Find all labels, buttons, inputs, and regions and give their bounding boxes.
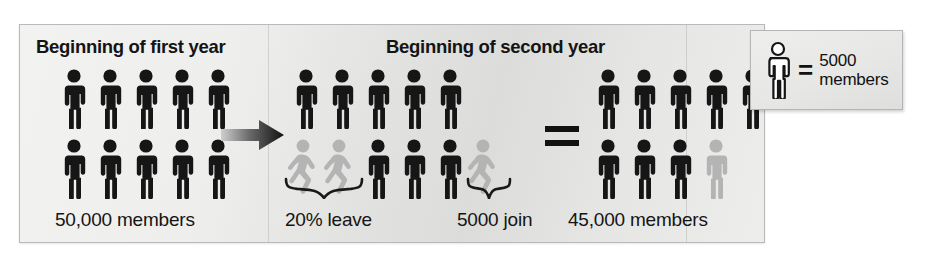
person-figure-icon <box>288 67 324 129</box>
person-figure-icon <box>396 67 432 129</box>
pictogram-row <box>590 67 770 129</box>
person-figure-icon <box>698 67 734 129</box>
person-figure-icon <box>432 67 468 129</box>
legend-value: 5000 <box>819 51 888 70</box>
person-figure-icon <box>626 67 662 129</box>
heading-beginning-first-year: Beginning of first year <box>36 36 225 58</box>
caption-result-total: 45,000 members <box>568 209 708 231</box>
right-arrow-icon <box>221 118 285 152</box>
legend-unit: members <box>819 70 888 89</box>
person-figure-icon <box>432 137 468 199</box>
person-figure-icon <box>662 67 698 129</box>
legend-equals-sign: = <box>798 57 813 83</box>
person-figure-icon <box>164 137 200 199</box>
heading-beginning-second-year: Beginning of second year <box>386 36 605 58</box>
person-figure-icon <box>360 137 396 199</box>
person-figure-icon <box>360 67 396 129</box>
person-figure-gray-icon <box>698 137 734 199</box>
equals-bar <box>545 126 579 132</box>
pictogram-row <box>590 137 734 199</box>
person-figure-icon <box>56 137 92 199</box>
legend-box: = 5000 members <box>750 30 903 110</box>
pictogram-row <box>56 137 236 199</box>
caption-first-year-total: 50,000 members <box>55 209 195 231</box>
brace-leave <box>284 177 364 199</box>
person-figure-icon <box>662 137 698 199</box>
person-figure-outline-icon <box>761 41 795 99</box>
equals-bar <box>545 140 579 146</box>
person-figure-icon <box>626 137 662 199</box>
person-figure-icon <box>590 67 626 129</box>
person-figure-icon <box>396 137 432 199</box>
person-figure-icon <box>128 137 164 199</box>
person-figure-icon <box>324 67 360 129</box>
pictogram-row <box>56 67 236 129</box>
person-figure-icon <box>164 67 200 129</box>
person-figure-icon <box>56 67 92 129</box>
infographic-panel: Beginning of first year Beginning of sec… <box>19 24 765 243</box>
caption-percent-leave: 20% leave <box>285 209 372 231</box>
caption-members-join: 5000 join <box>457 209 532 231</box>
person-figure-icon <box>92 137 128 199</box>
person-figure-icon <box>92 67 128 129</box>
person-figure-icon <box>590 137 626 199</box>
person-figure-icon <box>128 67 164 129</box>
equals-icon <box>545 118 585 152</box>
brace-join <box>466 177 512 199</box>
pictogram-row <box>288 67 468 129</box>
legend-text: 5000 members <box>819 51 888 89</box>
